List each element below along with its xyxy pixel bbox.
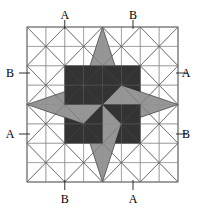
label-top-a: A [58, 9, 72, 21]
label-right-a: A [179, 67, 193, 79]
label-bottom-b: B [58, 193, 72, 205]
grid-overlay-layer [27, 27, 178, 182]
label-right-b: B [179, 128, 193, 140]
label-left-b: B [3, 67, 17, 79]
label-left-a: A [3, 128, 17, 140]
label-top-b: B [126, 9, 140, 21]
star-diagram-svg [0, 0, 206, 214]
label-bottom-a: A [126, 193, 140, 205]
star-quilt-figure: ABBAABBA [0, 0, 206, 214]
